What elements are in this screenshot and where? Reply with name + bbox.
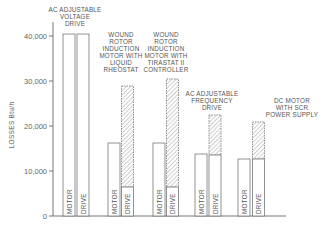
group-label-line: CONTROLLER	[143, 66, 188, 73]
tick-label-40000: 40,000	[24, 32, 47, 41]
group-label-line: WOUND	[108, 31, 134, 38]
group-label-line: DC MOTOR	[274, 97, 310, 104]
bar-label-motor: MOTOR	[156, 189, 163, 214]
bar-label-drive: DRIVE	[169, 193, 176, 214]
bar-label-drive: DRIVE	[212, 193, 219, 214]
group-label-line: MOTOR WITH	[144, 52, 187, 59]
group-label-line: AC ADJUSTABLE	[186, 90, 239, 97]
bar-drive-hatched	[167, 79, 179, 187]
bar-label-drive: DRIVE	[80, 193, 87, 214]
group-label-line: DRIVE	[65, 20, 85, 27]
tick-label-10000: 10,000	[24, 167, 47, 176]
bar-label-motor: MOTOR	[241, 189, 248, 214]
bar-label-motor: MOTOR	[111, 189, 118, 214]
losses-bar-chart: LOSSES Btu/h 0 10,000 20,000 30,000 40,0…	[0, 0, 332, 226]
y-axis-label: LOSSES Btu/h	[8, 102, 15, 149]
group-ac-adjustable-frequency-drive: AC ADJUSTABLE FREQUENCY DRIVE MOTOR DRIV…	[186, 90, 239, 216]
group-wound-rotor-liquid-rheostat: WOUND ROTOR INDUCTION MOTOR WITH LIQUID …	[99, 31, 142, 216]
tick-label-0: 0	[43, 212, 47, 221]
group-label-line: WOUND	[153, 31, 179, 38]
bar-label-drive: DRIVE	[124, 193, 131, 214]
bar-drive	[77, 34, 89, 216]
group-label-line: INDUCTION	[103, 45, 140, 52]
group-label-line: RHEOSTAT	[104, 66, 139, 73]
group-label-line: INDUCTION	[148, 45, 185, 52]
bar-drive-hatched	[253, 122, 265, 159]
bar-label-motor: MOTOR	[66, 189, 73, 214]
bar-drive-hatched	[209, 115, 221, 155]
bar-drive-hatched	[122, 86, 134, 187]
group-label-line: WITH SCR	[276, 104, 309, 111]
tick-label-20000: 20,000	[24, 122, 47, 131]
bar-motor	[63, 34, 75, 216]
y-ticks: 0 10,000 20,000 30,000 40,000	[24, 32, 53, 221]
group-label-line: POWER SUPPLY	[266, 111, 319, 118]
group-label-line: AC ADJUSTABLE	[49, 6, 102, 13]
group-label-line: DRIVE	[202, 104, 222, 111]
group-label-line: VOLTAGE	[60, 13, 90, 20]
group-wound-rotor-tirastat-controller: WOUND ROTOR INDUCTION MOTOR WITH TIRASTA…	[143, 31, 188, 216]
group-label-line: ROTOR	[109, 38, 133, 45]
bar-label-drive: DRIVE	[255, 193, 262, 214]
group-label-line: TIRASTAT II	[148, 59, 185, 66]
group-ac-adjustable-voltage-drive: AC ADJUSTABLE VOLTAGE DRIVE MOTOR DRIVE	[49, 6, 102, 216]
group-label-line: ROTOR	[154, 38, 178, 45]
bar-label-motor: MOTOR	[198, 189, 205, 214]
group-dc-motor-scr-power-supply: DC MOTOR WITH SCR POWER SUPPLY MOTOR DRI…	[238, 97, 319, 216]
tick-label-30000: 30,000	[24, 77, 47, 86]
group-label-line: MOTOR WITH	[99, 52, 142, 59]
